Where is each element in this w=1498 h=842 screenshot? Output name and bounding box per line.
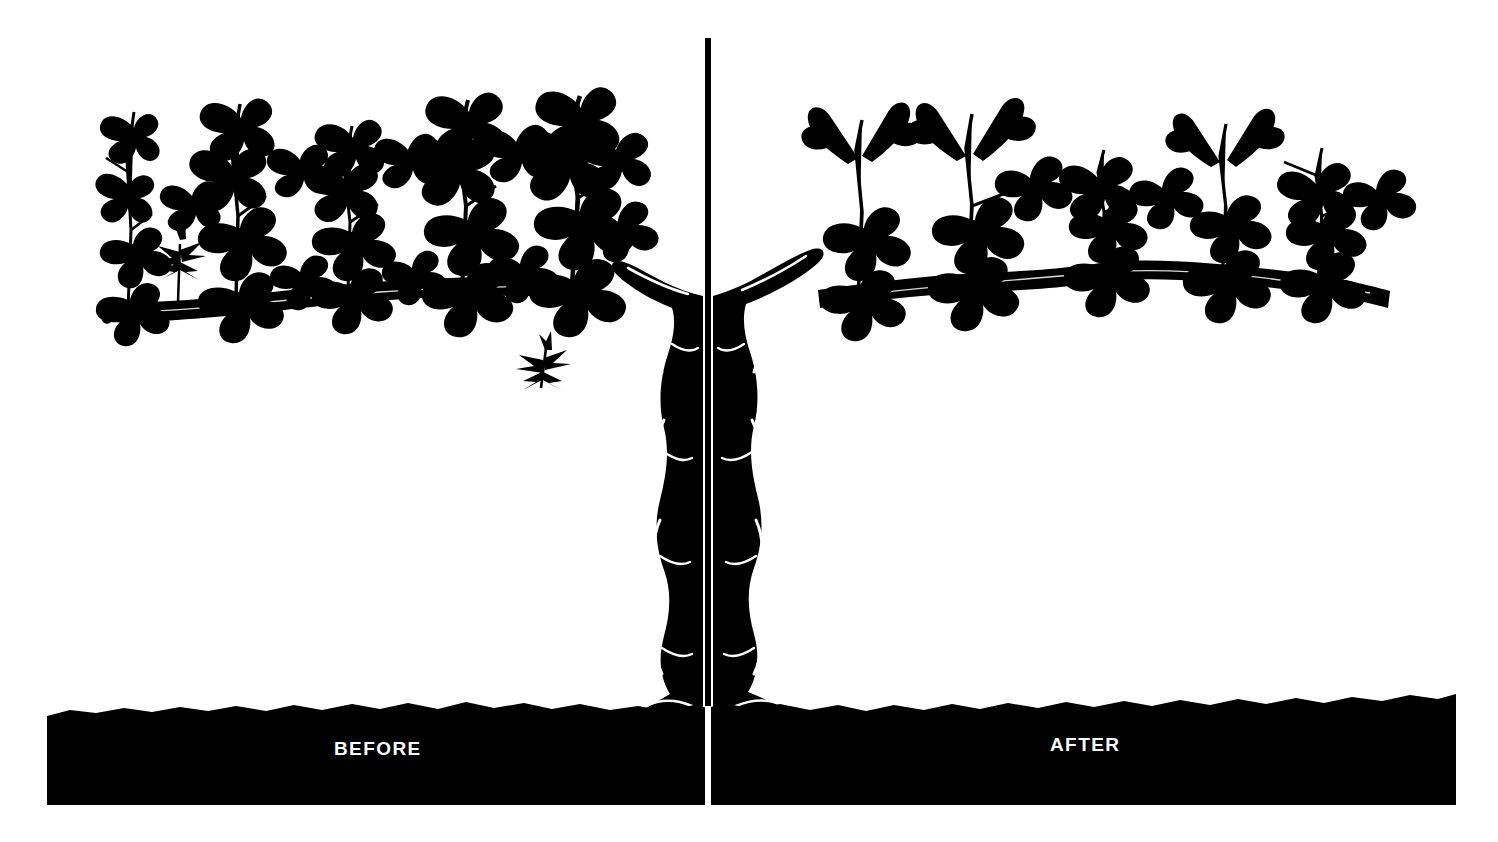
- before-after-pruning-illustration: [0, 0, 1498, 842]
- soil-band: [47, 694, 1456, 806]
- divider-in-soil: [705, 700, 711, 806]
- before-label: BEFORE: [334, 738, 422, 760]
- after-label: AFTER: [1050, 734, 1120, 756]
- center-divider-line: [705, 38, 711, 706]
- illustration-canvas: BEFORE AFTER: [0, 0, 1498, 842]
